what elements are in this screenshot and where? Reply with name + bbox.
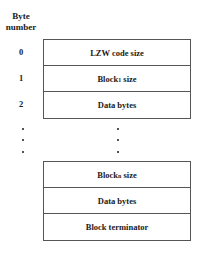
byte-number-2: 2 (0, 99, 42, 109)
block-terminator-field: Block terminator (44, 214, 190, 240)
header-line-2: number (0, 22, 42, 33)
byte-number-0: 0 (0, 47, 42, 57)
block-1-size-field: Block1 size (44, 66, 190, 92)
ellipsis-dot (22, 128, 24, 130)
field-subscript: 1 (118, 77, 121, 83)
byte-number-1: 1 (0, 73, 42, 83)
field-suffix: size (121, 170, 136, 180)
block-n-size-field: Blockn size (44, 162, 190, 188)
data-bytes-field: Data bytes (44, 188, 190, 214)
lzw-code-size-field: LZW code size (44, 40, 190, 66)
ellipsis-dot (117, 151, 119, 153)
field-label: Data bytes (98, 196, 136, 206)
field-label: Block (97, 170, 118, 180)
field-label: Block terminator (86, 222, 149, 232)
field-suffix: size (121, 74, 136, 84)
ellipsis-dot (117, 128, 119, 130)
data-bytes-field: Data bytes (44, 92, 190, 118)
field-subscript: n (118, 173, 121, 179)
byte-number-header: Byte number (0, 11, 42, 33)
header-line-1: Byte (0, 11, 42, 22)
ellipsis-dot (22, 139, 24, 141)
field-label: Data bytes (98, 100, 136, 110)
field-label: LZW code size (90, 48, 144, 58)
ellipsis-dot (22, 151, 24, 153)
field-label: Block (97, 74, 118, 84)
bottom-block-structure: Blockn size Data bytes Block terminator (43, 161, 191, 241)
ellipsis-dot (117, 139, 119, 141)
top-block-structure: LZW code size Block1 size Data bytes (43, 39, 191, 119)
